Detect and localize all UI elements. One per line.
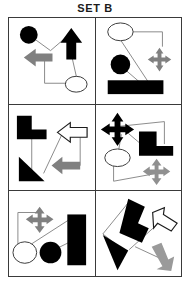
figure-cell-5[interactable] <box>9 190 95 276</box>
black-l-shape-icon <box>17 116 47 139</box>
white-arrow-down-right-icon <box>153 208 177 231</box>
cell-4-canvas <box>96 105 181 190</box>
gray-arrow-down-icon <box>152 243 174 271</box>
black-up-arrow-icon <box>60 28 82 60</box>
white-ellipse-icon <box>108 23 133 41</box>
white-ellipse-icon <box>105 149 130 167</box>
figure-cell-3[interactable] <box>9 104 95 190</box>
white-left-arrow-icon <box>57 123 87 143</box>
figure-cell-4[interactable] <box>95 104 181 190</box>
black-four-way-arrow-icon <box>101 113 134 146</box>
black-rectangle-icon <box>108 80 164 94</box>
gray-left-arrow-icon <box>24 49 53 67</box>
white-ellipse-icon <box>65 76 87 92</box>
black-circle-icon <box>111 55 131 75</box>
figure-page: SET B <box>0 0 190 291</box>
cell-5-canvas <box>9 191 95 276</box>
cell-3-canvas <box>9 105 95 190</box>
gray-four-way-arrow-icon <box>26 207 54 233</box>
black-triangle-icon <box>103 235 128 270</box>
page-title: SET B <box>0 2 190 14</box>
black-rectangle-icon <box>67 214 86 265</box>
gray-four-way-arrow-icon <box>148 48 171 72</box>
black-circle-icon <box>20 26 38 44</box>
white-ellipse-icon <box>13 242 37 263</box>
figure-grid <box>8 17 182 277</box>
black-circle-icon <box>40 242 62 263</box>
cell-1-canvas <box>9 18 95 104</box>
black-l-shape-rotated-icon <box>119 199 148 243</box>
gray-four-way-arrow-icon <box>143 159 170 185</box>
cell-2-canvas <box>96 18 181 104</box>
black-l-shape-icon <box>139 131 173 155</box>
figure-cell-2[interactable] <box>95 18 181 104</box>
gray-left-arrow-icon <box>52 157 81 175</box>
cell-6-canvas <box>96 191 181 276</box>
figure-cell-1[interactable] <box>9 18 95 104</box>
figure-cell-6[interactable] <box>95 190 181 276</box>
